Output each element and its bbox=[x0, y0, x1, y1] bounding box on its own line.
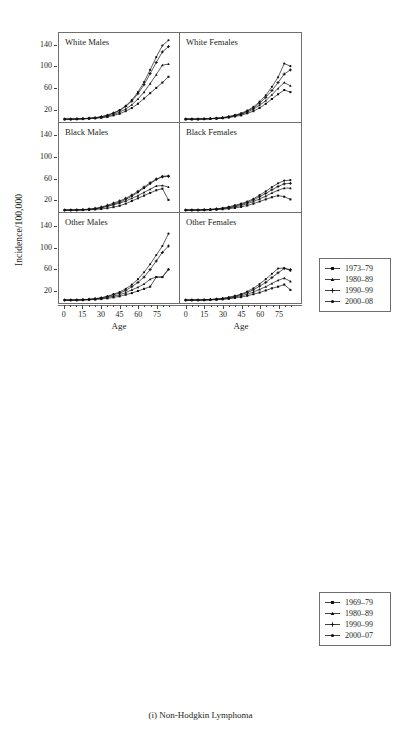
x-tick-mark bbox=[204, 305, 205, 309]
y-tick-label: 100 bbox=[18, 152, 52, 161]
x-tick-mark bbox=[254, 305, 255, 307]
x-tick-mark bbox=[279, 305, 280, 309]
x-tick-label: 15 bbox=[195, 310, 213, 319]
x-tick-mark bbox=[242, 305, 243, 309]
x-tick-mark bbox=[120, 305, 121, 309]
x-tick-mark bbox=[144, 305, 145, 307]
y-tick-mark bbox=[54, 179, 57, 180]
legend-marker-icon bbox=[324, 286, 341, 295]
x-tick-mark bbox=[186, 305, 187, 309]
y-tick-label: 140 bbox=[18, 130, 52, 139]
series-line-1990–99 bbox=[65, 47, 169, 120]
x-tick-mark bbox=[229, 305, 230, 307]
x-tick-mark bbox=[235, 305, 236, 307]
panel-plot bbox=[180, 33, 301, 122]
y-tick-label: 140 bbox=[18, 221, 52, 230]
series-line-1973–79 bbox=[65, 188, 169, 209]
y-tick-mark bbox=[54, 135, 57, 136]
y-tick-label: 60 bbox=[18, 83, 52, 92]
legend-label: 1990–99 bbox=[345, 286, 373, 295]
y-tick-label: 20 bbox=[18, 286, 52, 295]
legend-marker-icon bbox=[324, 297, 341, 306]
x-tick-label: 30 bbox=[214, 310, 232, 319]
x-tick-mark bbox=[211, 305, 212, 307]
series-line-1980–89 bbox=[186, 278, 291, 300]
x-tick-label: 45 bbox=[111, 310, 129, 319]
panel-black-females: Black Females bbox=[180, 123, 302, 214]
incidence-legend-item: 1990–99 bbox=[324, 285, 385, 296]
panel-plot bbox=[59, 213, 179, 303]
legend-label: 1980–89 bbox=[345, 609, 373, 618]
x-tick-mark bbox=[113, 305, 114, 307]
x-tick-mark bbox=[217, 305, 218, 307]
x-tick-mark bbox=[76, 305, 77, 307]
x-tick-mark bbox=[132, 305, 133, 307]
y-tick-label: 60 bbox=[18, 264, 52, 273]
x-axis-title: Age bbox=[211, 321, 271, 331]
x-tick-mark bbox=[285, 305, 286, 307]
legend-marker-icon bbox=[324, 275, 341, 284]
incidence-legend-item: 1980–89 bbox=[324, 274, 385, 285]
legend-label: 1990–99 bbox=[345, 620, 373, 629]
figure-caption: (i) Non-Hodgkin Lymphoma bbox=[0, 710, 401, 720]
legend-label: 1969–79 bbox=[345, 598, 373, 607]
x-tick-label: 75 bbox=[148, 310, 166, 319]
incidence-panel-grid: White MalesWhite FemalesBlack MalesBlack… bbox=[58, 32, 302, 304]
legend-marker-icon bbox=[324, 598, 341, 607]
y-tick-mark bbox=[54, 157, 57, 158]
panel-plot bbox=[180, 123, 301, 213]
panel-black-males: Black Males bbox=[58, 123, 180, 214]
y-tick-mark bbox=[54, 248, 57, 249]
x-tick-mark bbox=[89, 305, 90, 307]
x-tick-label: 15 bbox=[73, 310, 91, 319]
y-tick-mark bbox=[54, 291, 57, 292]
x-tick-mark bbox=[107, 305, 108, 307]
panel-other-females: Other Females bbox=[180, 213, 302, 304]
series-line-1990–99 bbox=[65, 176, 169, 210]
legend-label: 2000–07 bbox=[345, 631, 373, 640]
death-legend-item: 2000–07 bbox=[324, 630, 385, 641]
death-legend-item: 1980–89 bbox=[324, 608, 385, 619]
x-tick-mark bbox=[95, 305, 96, 307]
y-tick-mark bbox=[54, 226, 57, 227]
panel-plot bbox=[180, 213, 301, 303]
panel-plot bbox=[59, 123, 179, 213]
series-line-1980–89 bbox=[65, 64, 169, 119]
x-tick-label: 60 bbox=[251, 310, 269, 319]
x-tick-mark bbox=[291, 305, 292, 307]
x-tick-mark bbox=[157, 305, 158, 309]
incidence-legend-item: 1973–79 bbox=[324, 263, 385, 274]
x-tick-label: 0 bbox=[177, 310, 195, 319]
series-line-1980–89 bbox=[186, 188, 291, 210]
x-tick-mark bbox=[151, 305, 152, 307]
series-line-1990–99 bbox=[186, 70, 291, 119]
y-tick-label: 100 bbox=[18, 243, 52, 252]
legend-marker-icon bbox=[324, 620, 341, 629]
panel-white-females: White Females bbox=[180, 32, 302, 123]
series-line-1980–89 bbox=[186, 83, 291, 120]
x-tick-mark bbox=[260, 305, 261, 309]
death-chart-block: Death/100,000 White MalesWhite FemalesBl… bbox=[0, 368, 401, 698]
legend-marker-icon bbox=[324, 264, 341, 273]
panel-plot bbox=[59, 33, 179, 122]
series-line-1973–79 bbox=[186, 195, 291, 209]
legend-label: 2000–08 bbox=[345, 297, 373, 306]
series-line-2000–08 bbox=[186, 64, 291, 120]
y-tick-label: 20 bbox=[18, 105, 52, 114]
legend-label: 1973–79 bbox=[345, 264, 373, 273]
legend-label: 1980–89 bbox=[345, 275, 373, 284]
legend-marker-icon bbox=[324, 609, 341, 618]
y-tick-mark bbox=[54, 45, 57, 46]
y-tick-mark bbox=[54, 66, 57, 67]
death-legend-item: 1990–99 bbox=[324, 619, 385, 630]
panel-white-males: White Males bbox=[58, 32, 180, 123]
x-tick-label: 75 bbox=[270, 310, 288, 319]
death-legend-item: 1969–79 bbox=[324, 597, 385, 608]
y-tick-mark bbox=[54, 269, 57, 270]
y-tick-label: 60 bbox=[18, 174, 52, 183]
y-tick-label: 140 bbox=[18, 40, 52, 49]
y-tick-mark bbox=[54, 200, 57, 201]
x-tick-mark bbox=[163, 305, 164, 307]
legend-marker-icon bbox=[324, 631, 341, 640]
x-tick-mark bbox=[64, 305, 65, 309]
